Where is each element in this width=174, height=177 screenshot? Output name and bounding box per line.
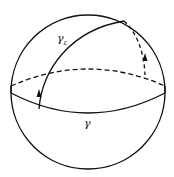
equator-back-dashed: [11, 69, 165, 86]
arrow-up-icon: [143, 53, 148, 61]
gamma-epsilon-front: [39, 21, 124, 109]
gamma-epsilon-subscript: ε: [64, 39, 68, 47]
equator-front-gamma: [11, 93, 165, 113]
gamma-label: γ: [84, 117, 91, 130]
gamma-epsilon-label: γε: [57, 32, 68, 47]
gamma-epsilon-back-dashed: [124, 21, 145, 75]
sphere-diagram: γ γε: [0, 0, 174, 177]
arrow-up-icon: [37, 89, 42, 97]
sphere-outline: [11, 15, 165, 169]
